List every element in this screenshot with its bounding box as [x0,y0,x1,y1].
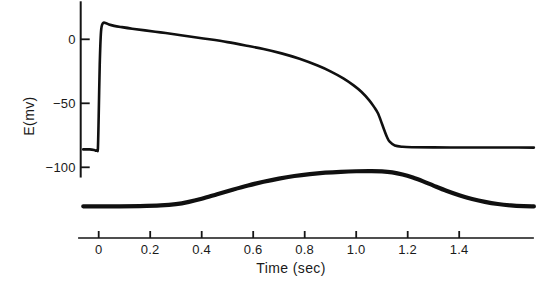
figure-container: 0−50−100 00.20.40.60.81.01.21.4 E(mv) Ti… [0,0,555,291]
chart-svg: 0−50−100 00.20.40.60.81.01.21.4 E(mv) Ti… [0,0,555,291]
x-axis-tick-label: 0 [95,242,102,257]
y-axis-tick-label: −100 [46,160,76,175]
x-axis-tick-label: 1.0 [347,242,366,257]
y-axis-title: E(mv) [21,96,37,135]
x-axis-tick-label: 0.8 [295,242,314,257]
x-axis: 00.20.40.60.81.01.21.4 [78,231,534,257]
x-axis-tick-label: 0.4 [192,242,211,257]
x-axis-tick-label: 0.6 [244,242,263,257]
trace-tension [83,171,534,206]
y-axis-tick-label: 0 [68,32,75,47]
x-axis-title: Time (sec) [256,260,326,276]
x-axis-tick-label: 1.2 [398,242,417,257]
trace-action-potential [83,22,534,151]
data-traces [83,22,534,206]
y-axis-tick-label: −50 [53,96,76,111]
x-axis-tick-label: 0.2 [141,242,160,257]
x-axis-tick-label: 1.4 [450,242,469,257]
y-axis: 0−50−100 [46,1,90,177]
